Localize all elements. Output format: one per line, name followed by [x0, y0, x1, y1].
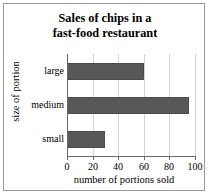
chart-title: Sales of chips in a fast-food restaurant — [22, 11, 188, 40]
x-tick-mark — [93, 156, 94, 160]
gridline — [195, 54, 196, 156]
y-axis-title: size of portion — [10, 47, 21, 137]
chart-frame: Sales of chips in a fast-food restaurant… — [3, 3, 205, 191]
y-axis-line — [67, 54, 68, 156]
x-axis-title: number of portions sold — [44, 174, 204, 185]
x-tick-mark — [169, 156, 170, 160]
x-tick-mark — [67, 156, 68, 160]
x-tick-mark — [195, 156, 196, 160]
x-axis-line — [67, 156, 196, 157]
chart-title-line-1: Sales of chips in a — [22, 11, 188, 26]
bar-large — [67, 63, 144, 80]
chart-title-line-2: fast-food restaurant — [22, 26, 188, 41]
x-tick-mark — [144, 156, 145, 160]
x-tick-mark — [118, 156, 119, 160]
bar-small — [67, 131, 105, 148]
bar-medium — [67, 97, 189, 114]
x-tick-label: 100 — [180, 161, 205, 172]
